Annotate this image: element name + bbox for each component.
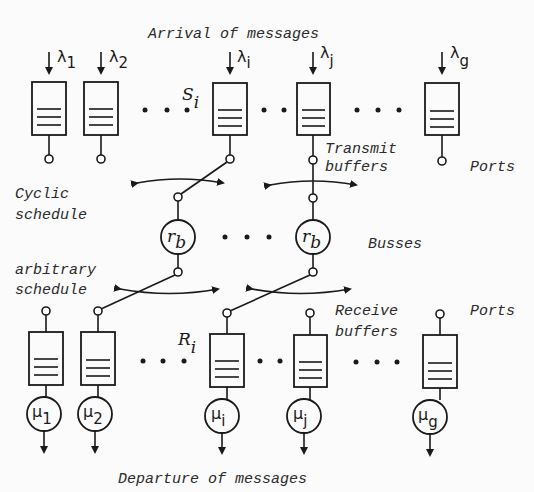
bus-b: rb	[296, 202, 330, 276]
port-icon	[309, 194, 317, 202]
server-2: μ2	[78, 397, 112, 452]
server-j: μj	[287, 399, 321, 453]
receive-buffer-g	[423, 310, 457, 400]
port-icon	[45, 155, 53, 163]
arbitrary-label-line2: schedule	[15, 282, 87, 299]
cyclic-label-line1: Cyclic	[15, 186, 69, 203]
port-icon	[306, 309, 314, 317]
lambda-symbol: λ	[57, 47, 66, 66]
svg-text:λj: λj	[320, 43, 334, 70]
receive-buffer-2	[81, 307, 115, 398]
ellipsis-bottom	[141, 359, 400, 365]
lambda-subscript: g	[459, 52, 469, 70]
double-arrow-icon	[252, 289, 350, 294]
r-i-label: Ri	[177, 329, 196, 357]
svg-text:λi: λi	[237, 47, 251, 72]
port-icon	[174, 193, 182, 201]
server-g: μg	[413, 400, 447, 455]
bus-1: rb	[161, 201, 195, 276]
ellipsis-busses	[223, 235, 272, 240]
bus-system-diagram: Arrival of messages λ1 λ2 λi λj λg Si	[0, 0, 534, 492]
servers: μ1 μ2 μi μj μg	[27, 397, 447, 455]
port-icon	[94, 307, 102, 315]
arbitrary-switch-2	[230, 275, 350, 311]
lambda-symbol: λ	[109, 47, 118, 66]
departure-label: Departure of messages	[118, 471, 307, 488]
receive-label-line2: buffers	[335, 324, 398, 341]
receive-buffer-1	[29, 307, 63, 398]
receive-buffer-j	[294, 309, 327, 400]
double-arrow-icon	[137, 179, 223, 183]
ports-bottom-label: Ports	[470, 303, 515, 320]
lambda-subscript: i	[246, 54, 250, 72]
cyclic-label-line2: schedule	[15, 207, 87, 224]
port-icon	[174, 268, 182, 276]
transmit-label-line2: buffers	[325, 159, 388, 176]
server-i: μi	[205, 399, 239, 453]
svg-text:λ2: λ2	[109, 47, 128, 72]
ellipsis-top	[143, 108, 402, 113]
transmit-buffer-1	[32, 82, 66, 163]
lambda-subscript: 1	[66, 54, 76, 72]
port-icon	[309, 156, 317, 164]
arrival-label: Arrival of messages	[147, 26, 319, 43]
lambda-subscript: 2	[118, 54, 128, 72]
busses-label: Busses	[368, 236, 422, 253]
port-icon	[97, 155, 105, 163]
transmit-buffer-g	[425, 83, 459, 165]
transmit-label-line1: Transmit	[325, 141, 397, 158]
arbitrary-switch-1	[101, 275, 218, 309]
svg-text:λ1: λ1	[57, 47, 76, 72]
svg-text:λg: λg	[450, 43, 469, 70]
cyclic-switch-1	[137, 162, 227, 201]
receive-buffer-i	[210, 309, 244, 400]
arbitrary-label-line1: arbitrary	[15, 262, 97, 279]
server-1: μ1	[27, 397, 61, 452]
port-icon	[223, 309, 231, 317]
transmit-buffer-2	[84, 82, 118, 163]
receive-buffers	[29, 307, 457, 400]
transmit-buffer-i	[213, 83, 247, 163]
port-icon	[436, 310, 444, 318]
lambda-symbol: λ	[237, 47, 246, 66]
port-icon	[226, 155, 234, 163]
arrival-rate-labels: λ1 λ2 λi λj λg	[57, 43, 469, 72]
s-i-label: Si	[182, 84, 199, 112]
ports-top-label: Ports	[470, 159, 515, 176]
port-icon	[438, 157, 446, 165]
lambda-subscript: j	[328, 52, 333, 70]
port-icon	[309, 268, 317, 276]
lambda-symbol: λ	[450, 43, 459, 62]
lambda-symbol: λ	[320, 43, 329, 62]
port-icon	[42, 307, 50, 315]
receive-label-line1: Receive	[335, 303, 398, 320]
